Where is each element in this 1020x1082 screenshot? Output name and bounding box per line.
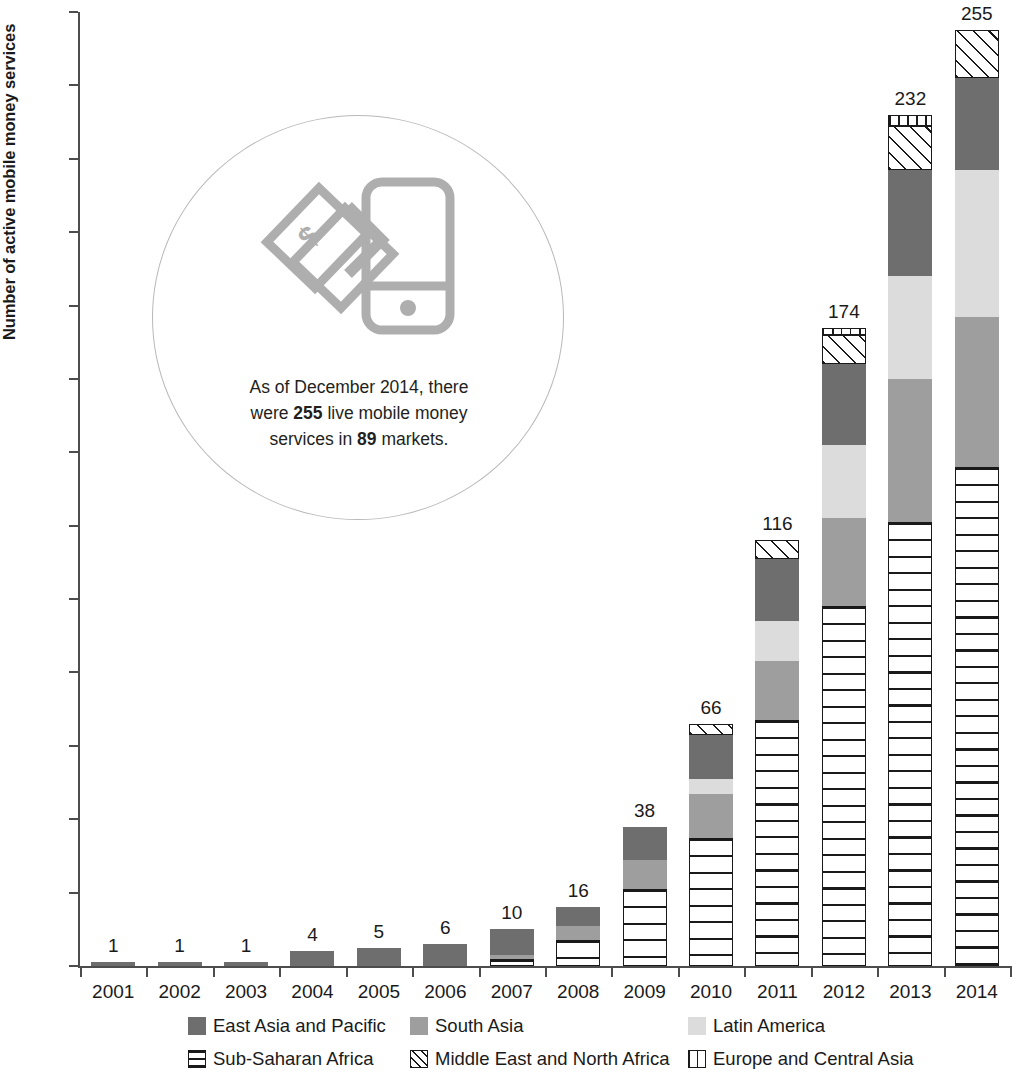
bar-segment-sa[interactable] xyxy=(689,794,733,838)
stacked-bar[interactable] xyxy=(822,328,866,966)
bar-segment-eap[interactable] xyxy=(423,944,467,966)
bar-segment-lac[interactable] xyxy=(689,779,733,794)
bar-segment-eap[interactable] xyxy=(224,962,268,966)
bar-segment-eap[interactable] xyxy=(91,962,135,966)
x-tick-mark xyxy=(279,966,281,977)
bar-segment-sa[interactable] xyxy=(755,661,799,720)
bar-total-label: 232 xyxy=(894,89,926,108)
bar-slot: 16 xyxy=(545,12,611,966)
bar-segment-sa[interactable] xyxy=(888,379,932,522)
bar-segment-ssa[interactable] xyxy=(556,940,600,966)
bar-segment-mena[interactable] xyxy=(822,335,866,364)
bar-segment-mena[interactable] xyxy=(888,126,932,170)
callout-line-3-prefix: services in xyxy=(270,429,358,449)
x-tick-label-2007: 2007 xyxy=(491,982,533,1002)
bar-segment-ssa[interactable] xyxy=(755,720,799,966)
x-tick-label-2009: 2009 xyxy=(624,982,666,1002)
bar-total-label: 1 xyxy=(108,936,119,955)
bar-segment-sa[interactable] xyxy=(822,518,866,606)
y-tick-mark xyxy=(69,525,78,527)
bar-segment-eca[interactable] xyxy=(822,328,866,335)
stacked-bar[interactable] xyxy=(689,724,733,966)
bar-slot: 10 xyxy=(479,12,545,966)
stacked-bar[interactable] xyxy=(290,951,334,966)
bar-total-label: 10 xyxy=(501,903,522,922)
x-tick-label-2014: 2014 xyxy=(956,982,998,1002)
stacked-bar[interactable] xyxy=(755,540,799,966)
legend-item-ssa[interactable]: Sub-Saharan Africa xyxy=(188,1049,373,1069)
bar-segment-mena[interactable] xyxy=(955,30,999,78)
callout-line-2-prefix: were xyxy=(251,403,294,423)
mobile-money-stacked-bar-chart: Number of active mobile money services 0… xyxy=(0,0,1020,1082)
legend-item-mena[interactable]: Middle East and North Africa xyxy=(410,1049,669,1069)
bar-segment-eap[interactable] xyxy=(158,962,202,966)
stacked-bar[interactable] xyxy=(224,962,268,966)
x-tick-mark xyxy=(1010,966,1012,977)
stacked-bar[interactable] xyxy=(91,962,135,966)
bar-segment-eap[interactable] xyxy=(888,170,932,276)
callout-line-1: As of December 2014, there xyxy=(250,377,469,397)
bar-segment-eap[interactable] xyxy=(357,948,401,966)
bar-segment-eap[interactable] xyxy=(755,559,799,621)
legend-row-top: East Asia and PacificSouth AsiaLatin Ame… xyxy=(0,1016,1020,1046)
bar-segment-lac[interactable] xyxy=(955,170,999,317)
bar-segment-eap[interactable] xyxy=(955,78,999,170)
stacked-bar[interactable] xyxy=(490,929,534,966)
stacked-bar[interactable] xyxy=(423,944,467,966)
bar-segment-eap[interactable] xyxy=(822,364,866,445)
bar-segment-eap[interactable] xyxy=(556,907,600,925)
legend-swatch-mena xyxy=(410,1050,428,1068)
legend-item-eca[interactable]: Europe and Central Asia xyxy=(688,1049,914,1069)
bar-segment-lac[interactable] xyxy=(888,276,932,379)
legend-label-ssa: Sub-Saharan Africa xyxy=(213,1049,373,1069)
stacked-bar[interactable] xyxy=(556,907,600,966)
bar-segment-lac[interactable] xyxy=(822,445,866,518)
bar-slot: 66 xyxy=(678,12,744,966)
stacked-bar[interactable] xyxy=(888,115,932,966)
stacked-bar[interactable] xyxy=(955,30,999,966)
bar-segment-ssa[interactable] xyxy=(822,606,866,966)
bar-segment-ssa[interactable] xyxy=(623,889,667,966)
bar-total-label: 255 xyxy=(961,4,993,23)
legend-swatch-eca xyxy=(688,1050,706,1068)
bar-segment-sa[interactable] xyxy=(623,860,667,889)
y-tick-mark xyxy=(69,451,78,453)
bar-segment-eap[interactable] xyxy=(689,735,733,779)
bar-total-label: 174 xyxy=(828,302,860,321)
bar-segment-mena[interactable] xyxy=(689,724,733,735)
legend-item-eap[interactable]: East Asia and Pacific xyxy=(188,1016,386,1036)
bar-segment-sa[interactable] xyxy=(556,926,600,941)
x-tick-label-2013: 2013 xyxy=(889,982,931,1002)
bar-segment-ssa[interactable] xyxy=(490,959,534,966)
stacked-bar[interactable] xyxy=(357,948,401,966)
bar-segment-mena[interactable] xyxy=(755,540,799,558)
bar-segment-ssa[interactable] xyxy=(888,522,932,966)
x-tick-mark xyxy=(944,966,946,977)
legend-swatch-lac xyxy=(688,1017,706,1035)
x-tick-label-2004: 2004 xyxy=(291,982,333,1002)
bar-segment-sa[interactable] xyxy=(490,955,534,959)
bar-slot: 1 xyxy=(146,12,212,966)
y-tick-mark xyxy=(69,818,78,820)
stacked-bar[interactable] xyxy=(158,962,202,966)
bar-segment-ssa[interactable] xyxy=(955,467,999,966)
bar-slot: 1 xyxy=(80,12,146,966)
bar-segment-ssa[interactable] xyxy=(689,838,733,966)
callout-markets-count: 89 xyxy=(357,429,376,449)
x-tick-mark xyxy=(146,966,148,977)
legend-label-eap: East Asia and Pacific xyxy=(213,1016,386,1036)
bar-slot: 38 xyxy=(611,12,677,966)
x-tick-label-2011: 2011 xyxy=(757,982,798,1002)
legend-item-lac[interactable]: Latin America xyxy=(688,1016,825,1036)
x-tick-mark xyxy=(479,966,481,977)
bar-segment-lac[interactable] xyxy=(755,621,799,661)
bar-segment-eap[interactable] xyxy=(623,827,667,860)
plot-area: 020406080100120140160180200220240260 111… xyxy=(78,12,1010,968)
stacked-bar[interactable] xyxy=(623,827,667,966)
bar-segment-sa[interactable] xyxy=(955,317,999,467)
bar-segment-eca[interactable] xyxy=(888,115,932,126)
y-tick-mark xyxy=(69,745,78,747)
bar-segment-eap[interactable] xyxy=(290,951,334,966)
bar-segment-eap[interactable] xyxy=(490,929,534,955)
legend-item-sa[interactable]: South Asia xyxy=(410,1016,523,1036)
